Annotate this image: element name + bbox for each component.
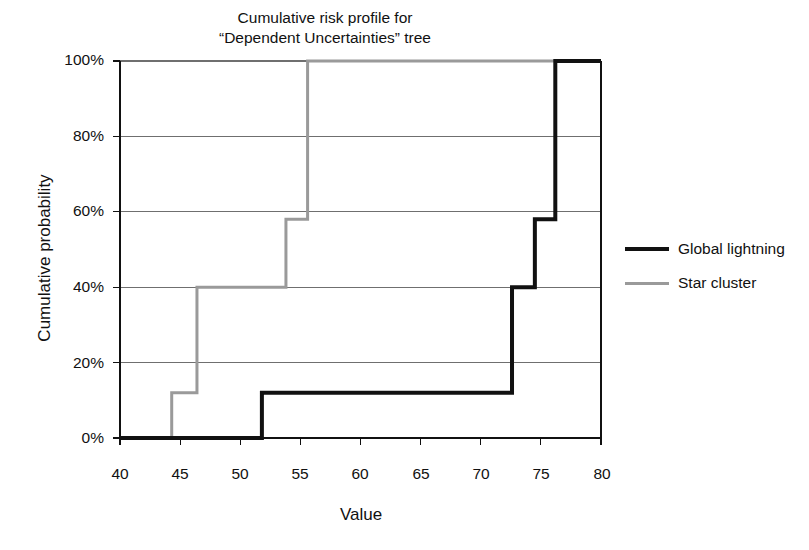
legend-label-star-cluster: Star cluster <box>678 274 756 292</box>
legend-label-global-lightning: Global lightning <box>678 240 785 258</box>
legend-item-global-lightning[interactable]: Global lightning <box>625 232 785 266</box>
data-series-group <box>120 61 601 438</box>
axis-lines <box>120 61 601 438</box>
axis-ticks <box>113 61 601 445</box>
legend: Global lightning Star cluster <box>625 232 785 300</box>
chart-figure: Cumulative risk profile for “Dependent U… <box>0 0 809 550</box>
legend-swatch-icon-global-lightning <box>625 247 669 251</box>
gridlines <box>120 61 601 438</box>
legend-item-star-cluster[interactable]: Star cluster <box>625 266 785 300</box>
legend-swatch-icon-star-cluster <box>625 282 669 285</box>
